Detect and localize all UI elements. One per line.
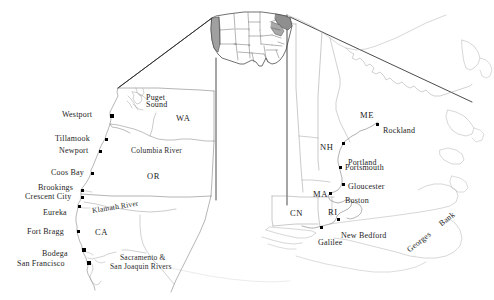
site-marker-coos-bay	[91, 172, 94, 175]
water-label-sound: Sound	[146, 100, 167, 109]
site-label-fort-bragg: Fort Bragg	[27, 227, 64, 236]
site-label-crescent-city: Crescent City	[25, 192, 71, 201]
state-label-me: ME	[360, 111, 374, 120]
state-label-wa: WA	[176, 114, 190, 123]
site-marker-brookings	[81, 189, 84, 192]
site-marker-crescent-city	[81, 196, 84, 199]
site-marker-san-francisco	[87, 261, 91, 265]
site-marker-newport	[99, 150, 102, 153]
state-label-ma: MA	[313, 190, 328, 199]
river-label-sacramento: Sacramento &	[120, 253, 166, 262]
site-label-new-bedford: New Bedford	[341, 231, 387, 240]
river-label-columbia: Columbia River	[131, 146, 182, 155]
site-label-gloucester: Gloucester	[348, 182, 385, 191]
site-label-rockland: Rockland	[383, 126, 415, 135]
state-label-or: OR	[147, 172, 160, 181]
site-label-eureka: Eureka	[43, 208, 67, 217]
site-label-newport: Newport	[59, 146, 88, 155]
site-label-brookings: Brookings	[38, 183, 73, 192]
site-label-coos-bay: Coos Bay	[51, 168, 84, 177]
site-marker-boston	[329, 192, 332, 195]
state-label-nh: NH	[320, 143, 333, 152]
inset-us-map	[211, 12, 292, 66]
site-label-bodega: Bodega	[42, 249, 68, 258]
site-marker-westport	[110, 114, 114, 118]
state-label-ca: CA	[95, 228, 108, 237]
state-label-ri: RI	[328, 208, 338, 217]
site-marker-fort-bragg	[77, 230, 80, 233]
site-marker-galilee	[320, 226, 323, 229]
figure-root: WA OR CA Puget Sound Columbia River Klam…	[0, 0, 494, 300]
site-marker-eureka	[78, 205, 81, 208]
site-label-westport: Westport	[62, 110, 92, 119]
leader-lines	[118, 15, 472, 205]
site-marker-portsmouth	[339, 166, 342, 169]
site-marker-gloucester	[342, 183, 345, 186]
site-marker-tillamook	[105, 138, 108, 141]
site-label-san-francisco: San Francisco	[17, 259, 65, 268]
site-label-galilee: Galilee	[318, 238, 343, 247]
river-label-san-joaquin: San Joaquin Rivers	[110, 262, 172, 271]
state-label-cn: CN	[290, 209, 303, 218]
site-label-tillamook: Tillamook	[55, 134, 90, 143]
site-marker-bodega	[82, 248, 86, 252]
site-marker-new-bedford	[337, 218, 340, 221]
site-label-boston: Boston	[345, 196, 369, 205]
site-marker-portland	[342, 142, 345, 145]
site-marker-rockland	[376, 123, 379, 126]
site-label-portsmouth: Portsmouth	[345, 163, 384, 172]
